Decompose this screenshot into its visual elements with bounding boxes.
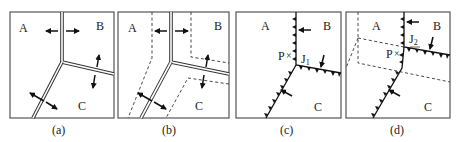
plate-label-c: C [314,100,322,114]
junction-label-j1: J1 [301,52,310,67]
panel-d: A B C P × J2 (d) [346,12,450,137]
caption-a: (a) [52,123,65,137]
plate-label-a: A [261,19,270,33]
panel-c: A B C P × J1 (c) [236,12,341,137]
caption-b: (b) [162,123,176,137]
arrow-upleft-icon [138,93,152,101]
plate-label-c: C [195,99,203,113]
plate-label-a: A [128,21,137,35]
junction-label-j2: J2 [409,32,418,47]
arrow-upleft-icon [389,90,400,96]
point-marker-icon: × [286,50,292,61]
arrow-downright-icon [154,102,166,109]
arrow-up-icon [97,55,99,67]
arrow-up-icon [206,55,208,67]
caption-c: (c) [280,123,293,137]
spreading-arrows [138,31,208,109]
plate-label-c: C [78,99,86,113]
caption-d: (d) [390,123,404,137]
plate-label-c: C [424,100,432,114]
triple-junction-figure: A B C (a) A B C (b) [0,0,456,142]
point-label-p: P [386,47,393,61]
point-marker-icon: × [394,48,400,59]
arrow-upleft-icon [281,90,292,96]
arrow-downright-icon [46,102,57,109]
plate-label-a: A [19,21,28,35]
plate-label-b: B [96,19,104,33]
spreading-arrows [30,31,99,109]
arrow-down-icon [430,37,433,49]
plate-label-b: B [433,19,441,33]
plate-label-b: B [214,19,222,33]
plate-label-b: B [323,19,331,33]
point-label-p: P [278,49,285,63]
plate-label-a: A [372,19,381,33]
panel-a: A B C (a) [10,12,114,137]
panel-b: A B C (b) [118,12,229,137]
arrow-down-icon [321,55,324,67]
arrow-down-icon [93,75,95,88]
arrow-down-icon [202,75,204,88]
